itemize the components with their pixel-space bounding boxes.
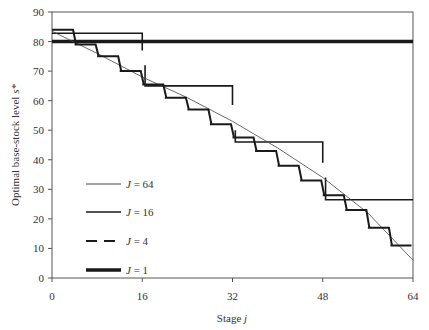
legend: J = 64J = 16J = 4J = 1 (86, 178, 154, 276)
legend-label: J = 4 (126, 235, 149, 247)
series-j16-line (52, 30, 412, 246)
plot-frame (52, 12, 413, 278)
legend-label: J = 1 (126, 264, 148, 276)
x-tick-label: 0 (49, 290, 55, 302)
legend-label: J = 64 (126, 178, 154, 190)
y-axis-ticks: 0102030405060708090 (33, 6, 52, 284)
x-tick-label: 48 (317, 290, 329, 302)
y-tick-label: 20 (33, 213, 45, 225)
base-stock-chart: 0102030405060708090 016324864 J = 64J = … (0, 0, 429, 330)
legend-item: J = 4 (86, 235, 149, 247)
x-tick-label: 16 (137, 290, 149, 302)
series-j4-line (235, 130, 322, 163)
x-axis-title: Stage j (217, 312, 247, 324)
legend-label: J = 16 (126, 206, 154, 218)
series-j64-line (52, 31, 413, 260)
series-j4-line (326, 178, 413, 200)
y-tick-label: 30 (33, 183, 45, 195)
y-tick-label: 10 (33, 242, 45, 254)
y-tick-label: 90 (33, 6, 45, 18)
legend-item: J = 64 (86, 178, 154, 190)
y-axis-title: Optimal base-stock level s* (9, 84, 21, 206)
legend-item: J = 16 (86, 206, 154, 218)
y-tick-label: 70 (33, 65, 45, 77)
x-axis-ticks: 016324864 (49, 278, 419, 302)
y-tick-label: 50 (33, 124, 45, 136)
y-tick-label: 60 (33, 95, 45, 107)
series-layer (52, 30, 413, 261)
x-tick-label: 64 (408, 290, 420, 302)
y-tick-label: 0 (39, 272, 45, 284)
plot-border (52, 12, 413, 278)
y-tick-label: 40 (33, 154, 45, 166)
legend-item: J = 1 (86, 264, 148, 276)
y-tick-label: 80 (33, 36, 45, 48)
x-tick-label: 32 (227, 290, 238, 302)
